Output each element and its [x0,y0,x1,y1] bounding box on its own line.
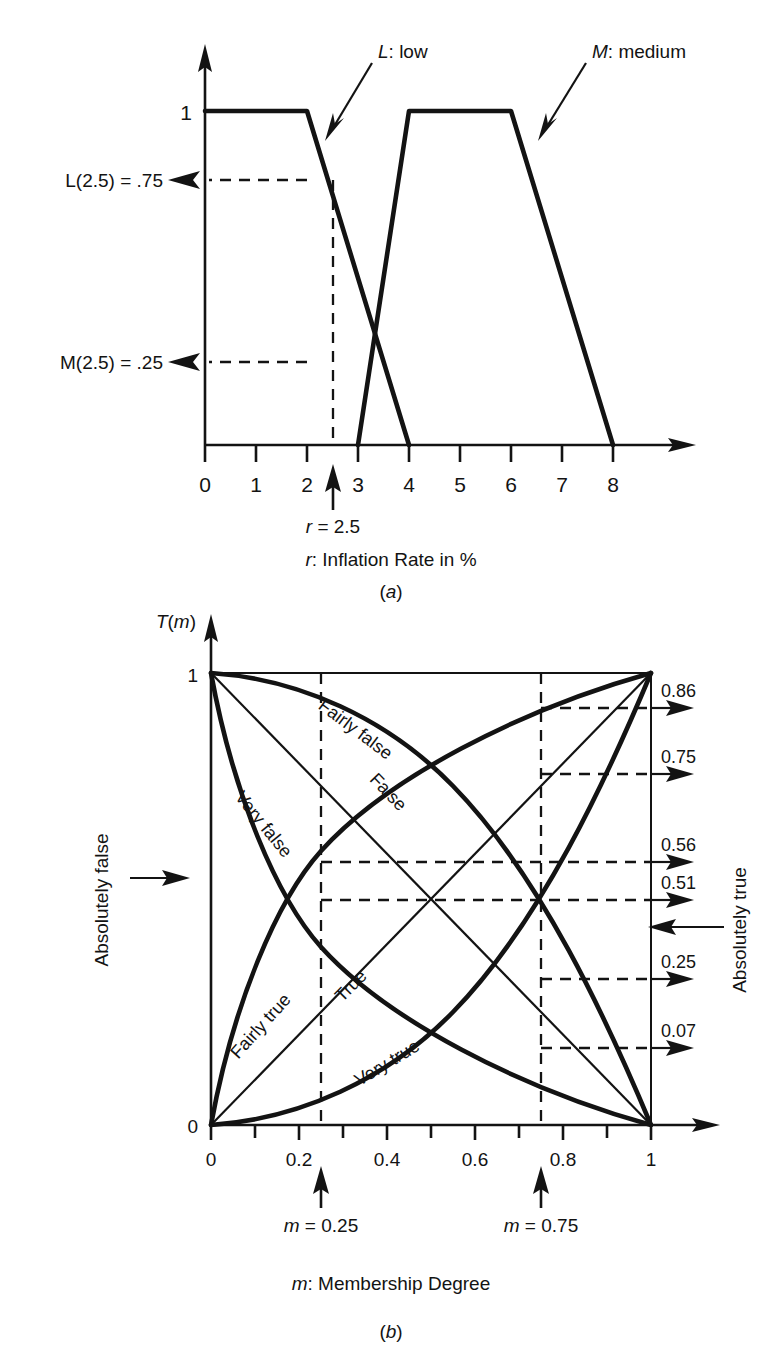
figure-b-caption: (b) [379,1321,402,1342]
label-low-symbol: L [378,41,389,62]
label-absolutely-true: Absolutely true [729,867,750,993]
callout-medium [538,63,586,141]
label-medium: M: medium [592,41,686,62]
label-very-true: Very true [351,1036,423,1090]
marker-m-0p75 [533,1166,549,1208]
figure-a: 0 1 2 3 4 5 6 7 8 1 [0,0,782,560]
curve-medium [358,111,613,445]
readout-0p56: 0.56 [661,835,696,855]
marker-m-0p25-label: m = 0.25 [284,1215,358,1236]
figure-a-xtick-8: 8 [607,473,619,496]
readout-0p51: 0.51 [661,873,696,893]
figure-b-ytick-0: 0 [187,1116,198,1137]
figure-a-xtick-4: 4 [403,473,415,496]
readout-0p07: 0.07 [661,1021,696,1041]
label-false: False [366,769,411,815]
marker-m-0p75-label: m = 0.75 [504,1215,578,1236]
figure-b-xtick-0p8: 0.8 [550,1149,576,1170]
figure-b-readout-guides [321,708,651,1048]
figure-a-xtick-6: 6 [505,473,517,496]
figure-b-canvas: 0 0.2 0.4 0.6 0.8 1 1 0 T(m) [0,600,782,1350]
figure-a-xtick-5: 5 [454,473,466,496]
figure-page: 0 1 2 3 4 5 6 7 8 1 [0,0,782,1350]
figure-a-xlabel: r: Inflation Rate in % [305,549,476,570]
absolutely-false-arrow [130,870,190,886]
marker-r-2point5 [325,464,341,510]
callout-low [325,63,372,141]
readout-0p25: 0.25 [661,952,696,972]
figure-b-x-ticklabels: 0 0.2 0.4 0.6 0.8 1 [206,1149,657,1170]
figure-a-x-ticks [205,445,613,462]
readout-0p86: 0.86 [661,681,696,701]
label-true: True [331,966,371,1006]
figure-b-ytick-1: 1 [187,665,198,686]
figure-a-xtick-7: 7 [556,473,568,496]
figure-a-captions: r: Inflation Rate in % (a) [0,548,782,608]
absolutely-true-arrow [648,919,724,935]
figure-a-x-ticklabels: 0 1 2 3 4 5 6 7 8 [199,473,619,496]
figure-a-dashed-guides [209,180,333,445]
figure-a-value-arrows [168,171,200,371]
label-low: L: low [378,41,428,62]
figure-a-xtick-0: 0 [199,473,211,496]
figure-a-xtick-2: 2 [301,473,313,496]
figure-a-x-axis [205,438,696,452]
figure-b-xtick-0p4: 0.4 [374,1149,401,1170]
figure-a-xtick-1: 1 [250,473,262,496]
figure-a-ytick-1: 1 [180,101,192,124]
figure-b-x-ticks [211,1125,651,1140]
figure-b-xlabel: m: Membership Degree [292,1273,491,1294]
figure-a-xtick-3: 3 [352,473,364,496]
readout-M-2point5: M(2.5) = .25 [60,352,163,373]
curve-low [205,111,409,445]
figure-a-caption: (a) [379,581,402,602]
figure-b-xtick-0p2: 0.2 [286,1149,312,1170]
figure-a-canvas: 0 1 2 3 4 5 6 7 8 1 [0,0,782,560]
figure-b-ylabel: T(m) [156,611,196,632]
label-absolutely-false: Absolutely false [91,833,112,966]
marker-r-label: r = 2.5 [306,516,360,537]
figure-b-xtick-1: 1 [646,1149,657,1170]
figure-a-y-axis [198,44,212,445]
readout-L-2point5: L(2.5) = .75 [65,170,163,191]
figure-b: 0 0.2 0.4 0.6 0.8 1 1 0 T(m) [0,600,782,1350]
figure-b-xtick-0p6: 0.6 [462,1149,488,1170]
label-medium-symbol: M [592,41,608,62]
readout-0p75: 0.75 [661,747,696,767]
figure-b-xtick-0: 0 [206,1149,217,1170]
marker-m-0p25 [313,1166,329,1208]
